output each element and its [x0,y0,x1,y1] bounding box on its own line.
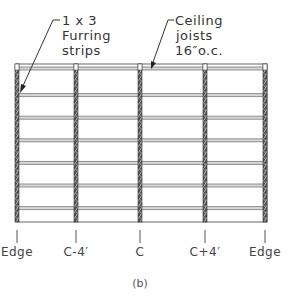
furring-callout-line-2: Furring [62,28,111,43]
furring-callout-line-1: 1 x 3 [62,13,97,28]
label-c-minus-4: C-4′ [63,245,88,259]
furring-callout-line-3: strips [62,43,101,58]
furring-leader-arrowhead [20,84,26,93]
ceiling-joist [15,64,19,222]
label-center: C [136,245,145,259]
furring-leader-line [22,20,60,88]
figure-caption: (b) [132,277,148,290]
furring-strips-callout: 1 x 3 Furring strips [20,13,111,93]
label-left-edge: Edge [1,245,33,259]
joists-callout-line-2: joists [175,28,213,43]
position-labels: Edge C-4′ C C+4′ Edge [1,245,281,259]
joists-leader-line [152,20,174,65]
joists-callout-line-1: Ceiling [175,13,223,28]
joists-callout-line-3: 16″o.c. [175,43,223,58]
label-c-plus-4: C+4′ [190,245,221,259]
ceiling-joist [74,64,78,222]
ceiling-joist [138,64,142,222]
position-ticks-group [17,230,265,243]
ceiling-joists-group [15,64,267,222]
ceiling-furring-diagram: 1 x 3 Furring strips Ceiling joists 16″o… [0,0,289,299]
label-right-edge: Edge [249,245,281,259]
ceiling-joist [203,64,207,222]
ceiling-joist [263,64,267,222]
ceiling-joists-callout: Ceiling joists 16″o.c. [151,13,223,69]
